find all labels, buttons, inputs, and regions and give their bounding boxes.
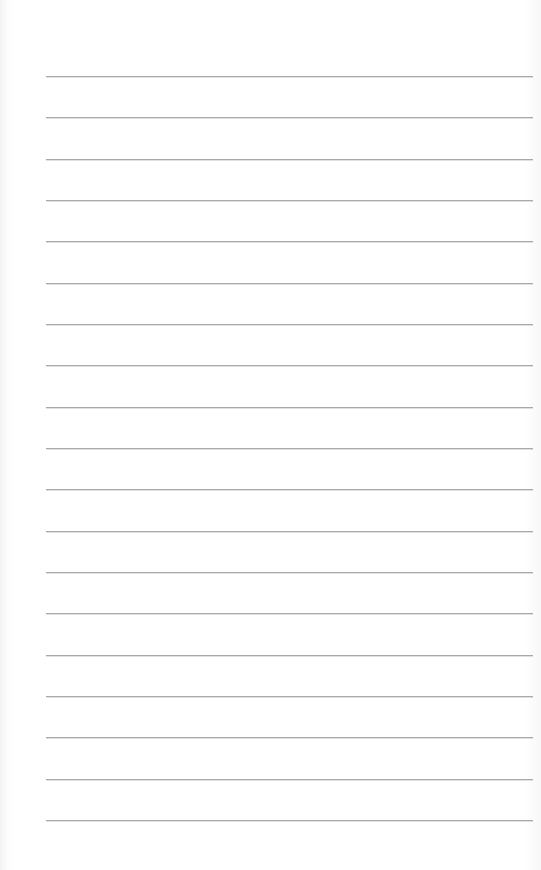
ruled-line [46,737,533,738]
ruled-line [46,696,533,697]
ruled-line [46,365,533,366]
ruled-line [46,200,533,201]
ruled-line [46,76,533,77]
ruled-line [46,159,533,160]
ruled-line [46,448,533,449]
ruled-line [46,655,533,656]
ruled-line [46,820,533,821]
ruled-line [46,779,533,780]
lined-paper-sheet [0,0,541,870]
ruled-line [46,613,533,614]
ruled-line [46,324,533,325]
ruled-line [46,531,533,532]
ruled-line [46,117,533,118]
ruled-line [46,572,533,573]
ruled-line [46,283,533,284]
ruled-line [46,407,533,408]
ruled-line [46,489,533,490]
ruled-line [46,241,533,242]
